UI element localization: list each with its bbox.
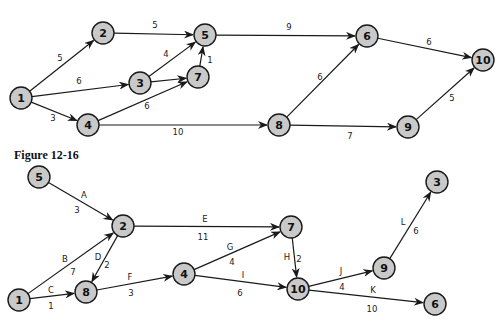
node-label: 9: [404, 121, 412, 134]
bottom-activity-label: F: [128, 272, 133, 282]
top-node-4: 4: [77, 114, 99, 136]
bottom-activity-label: C: [48, 285, 54, 295]
node-label: 4: [180, 268, 188, 281]
top-edge-9-10: [416, 68, 474, 120]
bottom-activity-label: L: [401, 217, 406, 227]
bottom-activity-duration: 10: [367, 304, 378, 314]
node-label: 1: [17, 92, 25, 105]
bottom-node-10: 10: [287, 278, 309, 300]
top-node-5: 5: [194, 24, 216, 46]
top-edge-weight: 5: [449, 93, 454, 103]
top-edge-2-5: [114, 33, 193, 35]
bottom-node-7: 7: [280, 216, 302, 238]
bottom-activity-duration: 7: [70, 267, 75, 277]
bottom-edge-4-10: [195, 275, 286, 287]
bottom-activity-label: I: [242, 270, 245, 280]
top-edge-5-6: [216, 35, 355, 36]
top-node-3: 3: [129, 72, 151, 94]
bottom-activity-duration: 6: [413, 226, 418, 236]
bottom-edge-9-3: [390, 192, 431, 258]
node-label: 3: [136, 77, 144, 90]
top-edge-weight: 6: [317, 72, 322, 82]
bottom-node-8: 8: [75, 281, 97, 303]
top-node-10: 10: [472, 49, 494, 71]
bottom-edge-1-2: [28, 233, 113, 294]
top-node-1: 1: [10, 87, 32, 109]
top-edge-weight: 4: [163, 49, 168, 59]
top-edge-7-5: [200, 47, 203, 66]
node-label: 2: [119, 220, 127, 233]
bottom-network-nodes: 52718410936: [8, 166, 448, 315]
bottom-node-6: 6: [424, 293, 446, 315]
node-label: 8: [82, 286, 90, 299]
top-node-7: 7: [187, 66, 209, 88]
bottom-edge-8-4: [97, 276, 172, 290]
bottom-edge-5-2: [49, 183, 113, 220]
top-edge-weight: 9: [286, 22, 291, 32]
top-node-9: 9: [397, 116, 419, 138]
bottom-activity-duration: 6: [237, 288, 242, 298]
bottom-activity-label: A: [81, 190, 87, 200]
top-edge-1-2: [30, 40, 94, 91]
bottom-activity-label: K: [370, 285, 376, 295]
top-edge-1-3: [32, 85, 128, 97]
top-node-2: 2: [92, 22, 114, 44]
bottom-edge-2-7: [134, 226, 279, 227]
node-label: 7: [194, 71, 202, 84]
node-label: 7: [287, 221, 295, 234]
top-edge-weight: 6: [144, 101, 149, 111]
bottom-activity-duration: 11: [198, 232, 209, 242]
bottom-node-1: 1: [8, 289, 30, 311]
node-label: 1: [15, 294, 23, 307]
top-node-8: 8: [268, 114, 290, 136]
node-label: 4: [84, 119, 92, 132]
bottom-activity-duration: 4: [229, 257, 234, 267]
top-edge-weight: 6: [76, 76, 81, 86]
bottom-activity-duration: 2: [104, 260, 109, 270]
node-label: 10: [290, 283, 306, 296]
bottom-activity-duration: 3: [74, 205, 79, 215]
top-network-nodes: 12537461089: [10, 22, 494, 138]
top-edge-weight: 7: [347, 131, 352, 141]
node-label: 8: [275, 119, 283, 132]
top-network-edges: [30, 33, 474, 127]
bottom-edge-10-6: [309, 290, 423, 302]
top-edge-8-9: [290, 125, 396, 127]
node-label: 5: [201, 29, 209, 42]
bottom-activity-duration: 4: [339, 282, 344, 292]
bottom-activity-label: D: [95, 252, 102, 262]
top-edge-weight: 5: [57, 53, 62, 63]
top-edge-weight: 3: [50, 113, 55, 123]
node-label: 5: [35, 171, 43, 184]
bottom-node-3: 3: [426, 171, 448, 193]
top-edge-weight: 10: [173, 127, 184, 137]
bottom-node-2: 2: [112, 215, 134, 237]
bottom-activity-label: J: [339, 266, 343, 276]
top-edge-6-10: [378, 38, 471, 57]
bottom-activity-label: H: [284, 252, 290, 262]
network-diagram: 55634169661075 12537461089 A3E11B7D2C1F3…: [0, 0, 502, 325]
bottom-activity-label: B: [62, 254, 68, 264]
top-edge-weight: 6: [426, 37, 431, 47]
top-edge-weight: 5: [152, 20, 157, 30]
node-label: 9: [380, 262, 388, 275]
top-edge-3-7: [151, 78, 186, 82]
bottom-activity-label: E: [202, 214, 207, 224]
bottom-node-5: 5: [28, 166, 50, 188]
node-label: 6: [431, 298, 439, 311]
node-label: 2: [99, 27, 107, 40]
node-label: 6: [363, 30, 371, 43]
bottom-node-9: 9: [373, 257, 395, 279]
node-label: 3: [433, 176, 441, 189]
bottom-activity-duration: 2: [296, 254, 301, 264]
top-node-6: 6: [356, 25, 378, 47]
bottom-node-4: 4: [173, 263, 195, 285]
bottom-activity-label: G: [227, 242, 234, 252]
bottom-activity-duration: 1: [48, 301, 53, 311]
bottom-activity-duration: 3: [128, 288, 133, 298]
node-label: 10: [475, 54, 491, 67]
top-edge-weight: 1: [207, 55, 212, 65]
